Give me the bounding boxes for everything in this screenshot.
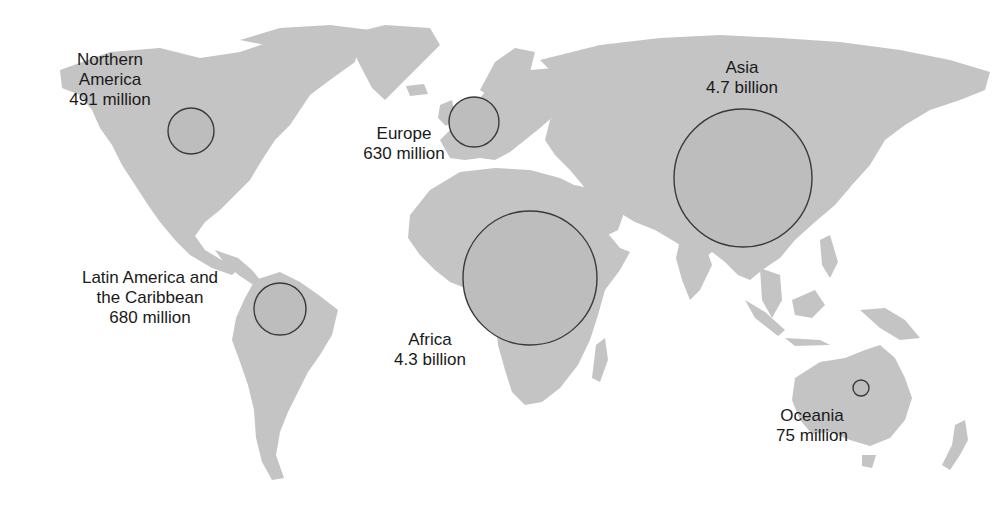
region-name-line-1: Oceania [762,406,862,426]
region-name-line-2: America [60,70,160,90]
land-philippines [820,235,838,278]
bubble-africa[interactable] [463,211,597,345]
land-new-zealand [942,420,968,470]
label-latin-america: Latin America and the Caribbean 680 mill… [62,268,238,328]
land-madagascar [592,338,608,382]
region-value: 680 million [62,308,238,328]
land-java [785,338,830,346]
region-value: 4.7 billion [696,78,788,98]
label-asia: Asia 4.7 billion [696,58,788,98]
region-value: 630 million [352,144,456,164]
label-northern-america: Northern America 491 million [60,50,160,110]
label-europe: Europe 630 million [352,124,456,164]
land-new-guinea [860,308,920,340]
region-value: 491 million [60,90,160,110]
region-name-line-2: the Caribbean [62,288,238,308]
region-name-line-1: Latin America and [62,268,238,288]
bubble-europe[interactable] [449,97,499,147]
land-iceland [406,84,428,96]
land-southeast-asia [760,268,782,318]
region-name-line-1: Asia [696,58,788,78]
land-borneo [792,290,825,318]
bubble-northern-america[interactable] [168,108,214,154]
bubble-latin-america[interactable] [254,283,306,335]
region-name-line-1: Europe [352,124,456,144]
region-value: 4.3 billion [382,350,478,370]
land-tasmania [862,455,876,468]
region-name-line-1: Africa [382,330,478,350]
bubble-asia[interactable] [674,109,812,247]
bubble-oceania[interactable] [853,380,869,396]
label-oceania: Oceania 75 million [762,406,862,446]
region-name-line-1: Northern [60,50,160,70]
label-africa: Africa 4.3 billion [382,330,478,370]
region-value: 75 million [762,426,862,446]
